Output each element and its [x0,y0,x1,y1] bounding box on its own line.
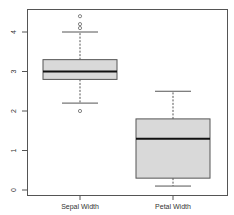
box-petal-width [136,91,210,186]
outlier-point [78,23,81,26]
y-tick-label: 0 [10,188,17,192]
y-axis: 01234 [10,30,28,192]
box-sepal-width [43,15,117,113]
y-tick-label: 3 [10,69,17,73]
outlier-point [78,109,81,112]
x-axis: Sepal WidthPetal Width [61,196,191,212]
outlier-point [78,15,81,18]
y-tick-label: 1 [10,148,17,152]
y-tick-label: 4 [10,30,17,34]
boxplot-chart: 01234 Sepal WidthPetal Width [0,0,234,215]
x-tick-label: Petal Width [155,203,191,210]
box-series [43,15,210,186]
x-tick-label: Sepal Width [61,203,99,211]
iqr-box [43,60,117,80]
y-tick-label: 2 [10,109,17,113]
iqr-box [136,119,210,178]
outlier-point [78,26,81,29]
